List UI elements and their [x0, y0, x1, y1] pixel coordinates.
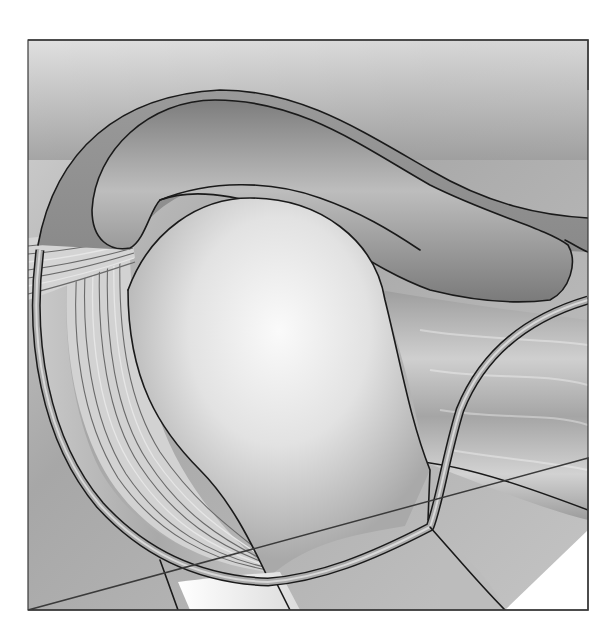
illustration-body [28, 40, 588, 610]
shoulder-anatomy-figure [0, 0, 611, 636]
